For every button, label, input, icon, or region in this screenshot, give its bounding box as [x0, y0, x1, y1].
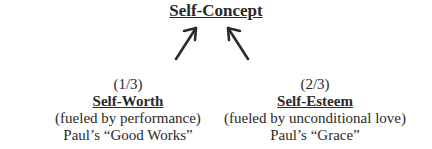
node-heading: Self-Worth [48, 93, 208, 110]
fraction-label: (2/3) [215, 76, 415, 93]
node-reference: Paul’s “Good Works” [48, 127, 208, 144]
arrow-right-icon [228, 28, 248, 59]
node-self-esteem: (2/3) Self-Esteem (fueled by uncondition… [215, 76, 415, 144]
fraction-label: (1/3) [48, 76, 208, 93]
node-description: (fueled by unconditional love) [215, 110, 415, 127]
arrow-left-icon [176, 28, 196, 59]
node-self-worth: (1/3) Self-Worth (fueled by performance)… [48, 76, 208, 144]
node-heading: Self-Esteem [215, 93, 415, 110]
node-description: (fueled by performance) [48, 110, 208, 127]
node-reference: Paul’s “Grace” [215, 127, 415, 144]
